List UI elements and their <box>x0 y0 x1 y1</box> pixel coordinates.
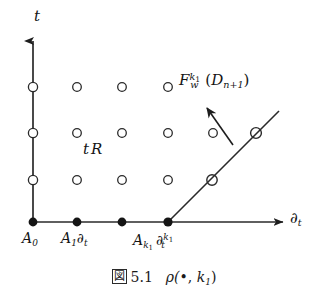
fw-base: F <box>179 71 189 89</box>
figure-kanji-box: 図 <box>112 269 127 284</box>
point-a1 <box>73 218 82 227</box>
a1-operator-sub: t <box>84 238 88 248</box>
lattice-circle <box>73 129 82 138</box>
diagram-canvas <box>0 0 328 302</box>
point-label-ak1-dtk1: Ak1∂k1t <box>133 233 165 247</box>
a1-sub: 1 <box>71 238 77 248</box>
caption-rho-close: ) <box>211 269 216 285</box>
figure-container: t ∂t A0 A1∂t Ak1∂k1t tR Fk1w(Dn+1) 図5.1ρ… <box>0 0 328 302</box>
lattice-circle <box>118 83 127 92</box>
dt-axis-label: ∂t <box>290 211 302 226</box>
ak-base: A <box>133 232 143 248</box>
ak-sub-k: k <box>143 240 148 250</box>
caption-formula: ρ(•, k1) <box>166 269 217 285</box>
point-label-a0: A0 <box>22 231 38 245</box>
a0-sub: 0 <box>32 238 38 248</box>
lattice-circle <box>28 82 37 91</box>
fw-arg-base: D <box>211 71 223 89</box>
pointer-arrow <box>207 108 233 145</box>
point-label-a1-dt: A1∂t <box>61 231 88 245</box>
lattice-circle <box>164 176 173 185</box>
region-label-tr: tR <box>83 142 102 157</box>
lattice-circle <box>118 176 127 185</box>
point-a0 <box>29 218 38 227</box>
caption-sub-1: 1 <box>205 277 211 287</box>
a0-base: A <box>22 230 32 246</box>
ak-sub-1: 1 <box>149 244 153 252</box>
figure-number: 5.1 <box>131 269 153 285</box>
diagonal-circle <box>207 175 217 185</box>
t-axis-label-text: t <box>34 7 40 25</box>
caption-bullet: • <box>180 269 188 285</box>
region-label-r: R <box>91 140 102 158</box>
lattice-open-circles <box>28 82 217 184</box>
lattice-circle <box>73 83 82 92</box>
point-ak1 <box>163 217 172 226</box>
lattice-circle <box>164 129 173 138</box>
lattice-circle <box>28 175 37 184</box>
caption-sub-k: k <box>197 269 205 285</box>
lattice-circle <box>28 128 37 137</box>
t-axis-label: t <box>34 9 40 24</box>
caption-rho-open: ρ( <box>166 269 180 285</box>
fw-paren-close: ) <box>244 71 250 89</box>
caption-comma: , <box>188 269 197 285</box>
lattice-circle <box>73 176 82 185</box>
ak-op-sup-1: 1 <box>169 235 174 244</box>
lattice-circle <box>118 129 127 138</box>
operator-label-fw: Fk1w(Dn+1) <box>179 73 249 88</box>
lattice-circle <box>209 129 218 138</box>
region-label-t: t <box>83 140 89 158</box>
lattice-circle <box>164 83 173 92</box>
dt-axis-label-base: ∂ <box>290 209 298 227</box>
ak-operator-sub: t <box>161 240 165 250</box>
figure-caption: 図5.1ρ(•, k1) <box>0 269 328 285</box>
fw-arg-sub: n+1 <box>223 79 243 90</box>
point-mid <box>118 218 127 227</box>
fw-sub: w <box>190 79 198 90</box>
ak-sub: k1 <box>143 240 153 250</box>
dt-axis-label-sub: t <box>298 217 302 228</box>
diagonal-boundary-line <box>168 111 279 222</box>
a1-operator: ∂ <box>77 230 84 246</box>
a1-base: A <box>61 230 71 246</box>
